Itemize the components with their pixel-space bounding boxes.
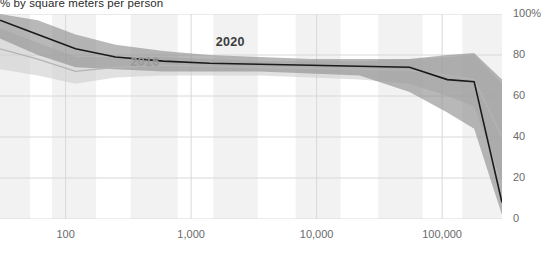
chart-title: % by square meters per person [0, 0, 163, 9]
shaded-band-5 [378, 14, 422, 219]
x-tick-label-100,000: 100,000 [422, 228, 462, 240]
x-tick-label-1,000: 1,000 [177, 228, 205, 240]
series-label-2016: 2016 [131, 55, 160, 69]
y-tick-label-100%: 100% [513, 7, 541, 19]
x-tick-label-10,000: 10,000 [300, 228, 334, 240]
chart-root: % by square meters per person 0204060801… [0, 0, 559, 253]
y-tick-label-60: 60 [513, 89, 525, 101]
y-tick-label-20: 20 [513, 171, 525, 183]
y-tick-label-80: 80 [513, 48, 525, 60]
x-tick-label-100: 100 [56, 228, 74, 240]
y-tick-label-0: 0 [513, 212, 519, 224]
y-tick-label-40: 40 [513, 130, 525, 142]
series-label-2020: 2020 [216, 35, 245, 49]
chart-canvas [0, 14, 502, 219]
shaded-band-4 [296, 14, 341, 219]
shaded-band-2 [131, 14, 178, 219]
plot-area [0, 14, 502, 219]
